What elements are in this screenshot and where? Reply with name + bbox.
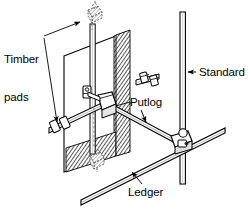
label-timber-pads-line2: pads [4,91,39,104]
label-timber-pads: Timber pads [4,28,39,128]
right-standard-tube [180,12,185,184]
leader-timber-pads-upper [44,22,80,36]
scaffold-diagram: Timber pads Standard Putlog Ledger [0,0,248,208]
leader-timber-pads-lower [44,38,57,122]
label-timber-pads-line1: Timber [4,53,39,66]
label-standard: Standard [199,66,245,79]
label-putlog: Putlog [130,96,162,109]
transom-tube [136,72,159,86]
right-standard-coupler [171,129,192,154]
label-ledger: Ledger [128,186,163,199]
